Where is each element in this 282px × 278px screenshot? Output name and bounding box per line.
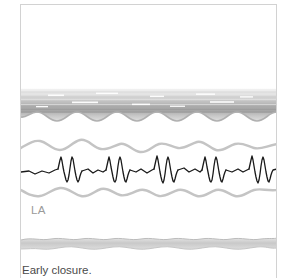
- echocardiogram-scan: [0, 0, 282, 278]
- posterior-wall-band: [21, 238, 277, 249]
- figure-root: LA Early closure.: [0, 0, 282, 278]
- lower-envelope: [21, 188, 277, 196]
- mitral-valve-trace: [21, 156, 277, 183]
- label-la: LA: [31, 204, 46, 216]
- upper-envelope: [21, 140, 277, 152]
- anterior-striated-band: [21, 88, 277, 121]
- figure-caption: Early closure.: [22, 264, 92, 276]
